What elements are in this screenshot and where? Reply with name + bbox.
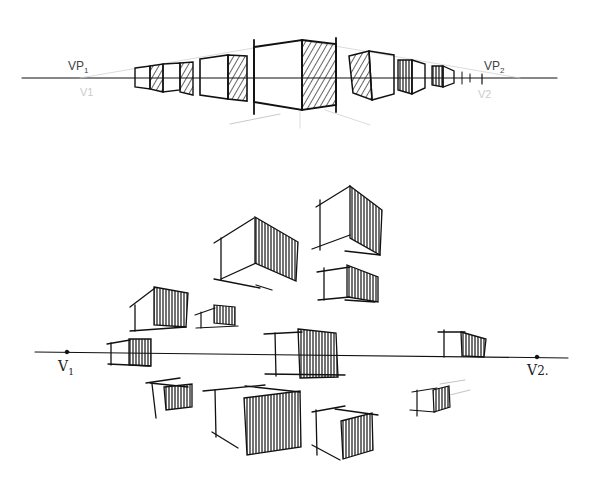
box-mid-right — [317, 265, 378, 302]
top-box-7 — [432, 66, 454, 87]
box-upper-center — [214, 217, 298, 290]
vp1-label: VP1 — [68, 59, 88, 75]
top-box-5 — [349, 51, 394, 100]
top-box-4 — [254, 38, 336, 114]
vp2-faint-label: V2 — [478, 88, 491, 100]
v1-label: V1 — [58, 358, 74, 377]
box-left-upper — [130, 287, 188, 331]
vp2-label: VP2 — [484, 59, 504, 75]
box-lower-center — [203, 385, 301, 455]
box-lower-left — [146, 378, 192, 418]
box-lower-right — [312, 406, 378, 460]
box-horizon-center — [264, 329, 345, 378]
sketch-canvas — [0, 0, 598, 486]
top-perspective-diagram — [22, 38, 557, 128]
bottom-perspective-diagram — [35, 186, 568, 460]
v2-label: V2. — [527, 362, 549, 378]
top-box-6 — [398, 60, 425, 94]
box-left-small — [195, 305, 238, 328]
box-lower-far-right — [410, 380, 470, 416]
vp1-faint-label: V1 — [80, 86, 93, 98]
box-upper-right — [312, 186, 382, 255]
box-horizon-right — [438, 330, 486, 357]
